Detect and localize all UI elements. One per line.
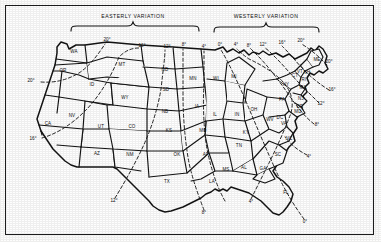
- state-label-mt: MT: [119, 62, 126, 67]
- header-label-westerly: WESTERLY VARIATION: [234, 13, 299, 19]
- region-braces: [71, 22, 319, 32]
- state-label-fl: FL: [283, 190, 289, 195]
- westerly-brace: [214, 23, 319, 32]
- degree-label-right-14: 16°: [329, 87, 336, 92]
- state-label-il: IL: [213, 112, 217, 117]
- degree-label-top-4: 4°: [202, 44, 207, 49]
- state-label-me: ME: [313, 57, 320, 62]
- state-label-ar: AR: [203, 152, 210, 157]
- state-label-md: MD: [294, 109, 302, 114]
- state-label-sd: SD: [163, 87, 170, 92]
- us-magnetic-variation-map: EASTERLY VARIATION WESTERLY VARIATION WA…: [6, 6, 373, 234]
- degree-label-right-13: 20°: [326, 59, 333, 64]
- state-label-ky: KY: [243, 130, 249, 135]
- state-label-mi: MI: [231, 74, 236, 79]
- state-label-wi: WI: [213, 76, 219, 81]
- degree-label-top-5: 0°: [218, 42, 223, 47]
- header-label-easterly: EASTERLY VARIATION: [101, 13, 164, 19]
- state-label-nm: NM: [126, 152, 133, 157]
- state-label-nj: NJ: [298, 96, 304, 101]
- state-label-nv: NV: [69, 113, 76, 118]
- degree-label-top-3: 8°: [182, 42, 187, 47]
- degree-label-left-11: 20°: [28, 78, 35, 83]
- state-label-nc: NC: [286, 136, 293, 141]
- degree-label-bottom-18: 12°: [111, 198, 118, 203]
- state-label-vt: VT: [297, 69, 303, 74]
- state-label-id: ID: [90, 82, 95, 87]
- state-label-az: AZ: [94, 151, 100, 156]
- degree-label-top-1: 16°: [139, 43, 146, 48]
- state-label-nd: ND: [162, 67, 169, 72]
- state-label-tx: TX: [164, 179, 170, 184]
- degree-label-right-17: 4°: [307, 154, 312, 159]
- degree-label-top-0: 20°: [104, 37, 111, 42]
- state-label-va: VA: [281, 121, 287, 126]
- degree-label-right-16: 8°: [315, 122, 320, 127]
- state-label-nb: NB: [162, 109, 169, 114]
- state-label-ny: NY: [283, 82, 290, 87]
- header-labels: EASTERLY VARIATION WESTERLY VARIATION: [101, 13, 298, 19]
- figure-page: EASTERLY VARIATION WESTERLY VARIATION WA…: [0, 0, 381, 242]
- degree-label-top-8: 12°: [260, 42, 267, 47]
- state-label-ia: IA: [195, 104, 200, 109]
- degree-label-top-2: 12°: [164, 44, 171, 49]
- state-label-co: CO: [128, 124, 135, 129]
- state-label-oh: OH: [250, 107, 257, 112]
- state-label-ok: OK: [174, 152, 181, 157]
- degree-label-left-12: 16°: [30, 136, 37, 141]
- state-label-ms: MS: [222, 167, 229, 172]
- state-label-mo: MO: [199, 128, 207, 133]
- state-label-ca: CA: [45, 121, 52, 126]
- state-label-de: DE: [297, 104, 304, 109]
- state-label-wv: WV: [266, 117, 274, 122]
- degree-label-top-10: 20°: [298, 38, 305, 43]
- degree-label-top-6: 4°: [234, 42, 239, 47]
- map-frame-border: EASTERLY VARIATION WESTERLY VARIATION WA…: [5, 5, 374, 235]
- state-label-or: OR: [59, 68, 67, 73]
- state-label-ma: MA: [299, 85, 306, 90]
- state-label-wy: WY: [121, 95, 129, 100]
- state-label-dc: DC: [277, 115, 284, 120]
- state-label-wa: WA: [70, 49, 77, 54]
- state-label-la: LA: [209, 179, 215, 184]
- state-label-mn: MN: [189, 76, 196, 81]
- state-label-al: AL: [241, 165, 247, 170]
- state-label-ga: GA: [260, 166, 267, 171]
- state-label-sc: SC: [275, 152, 282, 157]
- degree-label-top-9: 16°: [279, 40, 286, 45]
- state-label-tn: TN: [236, 143, 242, 148]
- state-label-in: IN: [235, 112, 240, 117]
- degree-label-bottom-20: 4°: [249, 199, 254, 204]
- degree-label-bottom-21: 0°: [303, 219, 308, 224]
- degree-label-bottom-19: 8°: [202, 210, 207, 215]
- state-label-pa: PA: [279, 97, 285, 102]
- state-label-ut: UT: [98, 124, 104, 129]
- state-label-ks: KS: [166, 128, 172, 133]
- easterly-brace: [71, 22, 199, 31]
- state-label-ri: RI: [302, 77, 307, 82]
- state-label-nh: NH: [304, 70, 311, 75]
- degree-label-top-7: 8°: [247, 43, 252, 48]
- degree-label-right-15: 12°: [318, 101, 325, 106]
